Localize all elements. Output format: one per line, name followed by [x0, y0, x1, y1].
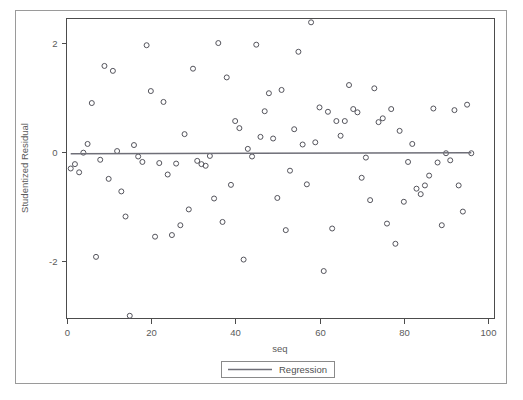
x-axis-title: seq — [272, 343, 287, 354]
data-point-marker — [254, 42, 259, 47]
data-point-marker — [283, 228, 288, 233]
data-point-marker — [89, 101, 94, 106]
x-tick-label: 40 — [230, 327, 241, 338]
data-point-marker — [220, 219, 225, 224]
data-point-marker — [347, 83, 352, 88]
data-point-marker — [140, 159, 145, 164]
data-point-marker — [439, 223, 444, 228]
data-point-marker — [368, 198, 373, 203]
data-point-marker — [148, 89, 153, 94]
y-axis-title: Studentized Residual — [19, 123, 30, 213]
data-point-marker — [98, 157, 103, 162]
data-point-marker — [131, 143, 136, 148]
legend-item-regression: Regression — [279, 364, 327, 375]
data-point-marker — [427, 173, 432, 178]
data-point-marker — [338, 133, 343, 138]
data-point-marker — [313, 140, 318, 145]
data-point-marker — [182, 132, 187, 137]
data-point-marker — [384, 221, 389, 226]
data-point-marker — [389, 107, 394, 112]
data-point-marker — [224, 75, 229, 80]
y-tick-label: -2 — [49, 256, 57, 267]
data-point-marker — [300, 142, 305, 147]
y-axis-ticks: 20-2 — [49, 38, 66, 267]
data-point-marker — [157, 161, 162, 166]
data-point-marker — [448, 158, 453, 163]
regression-line — [71, 153, 472, 154]
data-point-marker — [380, 116, 385, 121]
data-point-marker — [359, 175, 364, 180]
data-point-marker — [287, 168, 292, 173]
data-point-marker — [161, 99, 166, 104]
x-tick-label: 0 — [65, 327, 70, 338]
data-point-marker — [77, 170, 82, 175]
data-point-marker — [435, 160, 440, 165]
data-point-marker — [321, 269, 326, 274]
data-point-marker — [342, 119, 347, 124]
y-tick-label: 0 — [52, 147, 57, 158]
chart-svg: 20-2 020406080100 Studentized Residual s… — [0, 0, 523, 400]
data-point-marker — [106, 176, 111, 181]
data-point-marker — [304, 182, 309, 187]
data-point-marker — [153, 234, 158, 239]
data-point-marker — [178, 223, 183, 228]
data-point-marker — [169, 233, 174, 238]
data-point-marker — [325, 109, 330, 114]
x-tick-label: 60 — [315, 327, 326, 338]
data-point-marker — [68, 166, 73, 171]
data-point-marker — [127, 313, 132, 318]
data-point-marker — [241, 257, 246, 262]
data-point-marker — [363, 155, 368, 160]
data-point-marker — [119, 189, 124, 194]
data-point-marker — [165, 172, 170, 177]
y-tick-label: 2 — [52, 38, 57, 49]
regression-line-group — [71, 153, 472, 154]
data-point-marker — [418, 192, 423, 197]
chart-legend[interactable]: Regression — [222, 362, 335, 378]
data-point-marker — [110, 68, 115, 73]
plot-area-frame — [67, 19, 495, 319]
data-point-marker — [250, 154, 255, 159]
data-point-marker — [372, 86, 377, 91]
data-point-marker — [401, 199, 406, 204]
data-point-marker — [216, 41, 221, 46]
data-point-marker — [174, 161, 179, 166]
data-point-marker — [376, 120, 381, 125]
data-point-marker — [237, 126, 242, 131]
x-tick-label: 100 — [481, 327, 497, 338]
data-point-marker — [452, 108, 457, 113]
data-point-marker — [102, 63, 107, 68]
data-point-marker — [410, 141, 415, 146]
data-point-marker — [271, 136, 276, 141]
data-point-marker — [431, 106, 436, 111]
data-point-marker — [123, 214, 128, 219]
data-point-marker — [334, 119, 339, 124]
data-points-group — [68, 20, 474, 318]
data-point-marker — [212, 196, 217, 201]
scatter-plot-chart: 20-2 020406080100 Studentized Residual s… — [0, 0, 523, 400]
x-tick-label: 20 — [146, 327, 157, 338]
data-point-marker — [207, 153, 212, 158]
data-point-marker — [317, 105, 322, 110]
data-point-marker — [72, 162, 77, 167]
data-point-marker — [393, 241, 398, 246]
data-point-marker — [279, 87, 284, 92]
data-point-marker — [233, 119, 238, 124]
data-point-marker — [191, 66, 196, 71]
x-axis-ticks: 020406080100 — [65, 319, 497, 338]
data-point-marker — [309, 20, 314, 25]
data-point-marker — [330, 226, 335, 231]
data-point-marker — [262, 109, 267, 114]
data-point-marker — [422, 183, 427, 188]
data-point-marker — [275, 195, 280, 200]
x-tick-label: 80 — [399, 327, 410, 338]
data-point-marker — [136, 154, 141, 159]
data-point-marker — [266, 91, 271, 96]
data-point-marker — [144, 43, 149, 48]
data-point-marker — [414, 186, 419, 191]
data-point-marker — [94, 254, 99, 259]
data-point-marker — [397, 128, 402, 133]
data-point-marker — [292, 127, 297, 132]
data-point-marker — [186, 207, 191, 212]
data-point-marker — [460, 209, 465, 214]
